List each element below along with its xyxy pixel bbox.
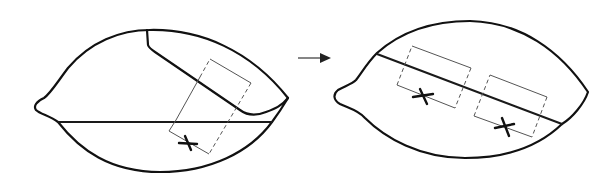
diagram-canvas	[0, 0, 615, 179]
rect2-edge-top	[490, 75, 547, 97]
panel-before	[35, 30, 288, 172]
leaf-outline-before	[35, 30, 288, 172]
rect-edge-left-upper	[176, 77, 200, 120]
x-mark-icon-2	[495, 118, 514, 136]
panel-after	[334, 21, 588, 158]
rect1-edge-top	[412, 46, 471, 68]
arrow-right-icon	[298, 53, 331, 63]
diagram-svg	[0, 0, 615, 179]
rect-edge-left-top	[200, 59, 210, 77]
x-mark-icon-1	[413, 89, 433, 104]
leaf-outline-after	[334, 21, 588, 158]
rect-edge-top	[210, 59, 251, 83]
